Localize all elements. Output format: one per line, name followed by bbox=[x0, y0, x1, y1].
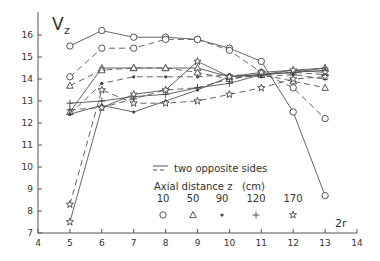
x-tick-label: 6 bbox=[99, 238, 105, 248]
circle-marker-icon bbox=[322, 115, 328, 121]
circle-marker-icon bbox=[99, 45, 105, 51]
circle-marker-icon bbox=[131, 45, 137, 51]
star-marker-icon bbox=[194, 97, 201, 104]
y-tick-label: 8 bbox=[27, 206, 33, 216]
x-tick-label: 14 bbox=[351, 238, 363, 248]
circle-marker-icon bbox=[160, 212, 166, 218]
legend-entry-label: 90 bbox=[216, 193, 229, 204]
legend-entries: 105090120170 bbox=[157, 193, 303, 219]
legend-entry-label: 120 bbox=[246, 193, 265, 204]
y-tick-label: 15 bbox=[22, 52, 33, 62]
x-tick-label: 8 bbox=[163, 238, 169, 248]
y-axis-label-subscript: z bbox=[64, 24, 70, 37]
legend-title: Axial distance z (cm) bbox=[154, 181, 265, 192]
star-marker-icon bbox=[66, 201, 73, 208]
triangle-marker-icon bbox=[322, 84, 329, 90]
legend: two opposite sides Axial distance z (cm)… bbox=[153, 163, 303, 219]
star-marker-icon bbox=[258, 84, 265, 91]
legend-entry-label: 50 bbox=[187, 193, 200, 204]
legend-line-note: two opposite sides bbox=[174, 163, 267, 174]
circle-marker-icon bbox=[258, 58, 264, 64]
asterisk-marker-icon bbox=[132, 75, 135, 78]
star-marker-icon bbox=[290, 75, 297, 82]
circle-marker-icon bbox=[67, 74, 73, 80]
asterisk-marker-icon bbox=[132, 110, 135, 113]
y-tick-label: 9 bbox=[27, 184, 33, 194]
y-tick-label: 16 bbox=[22, 30, 34, 40]
legend-entry-label: 170 bbox=[283, 193, 302, 204]
circle-marker-icon bbox=[162, 36, 168, 42]
x-tick-label: 11 bbox=[256, 238, 267, 248]
line-chart: 456789101112131478910111213141516 V z 2r… bbox=[0, 0, 380, 261]
circle-marker-icon bbox=[131, 34, 137, 40]
y-tick-label: 11 bbox=[22, 140, 33, 150]
x-axis-label: 2r bbox=[335, 217, 347, 230]
star-marker-icon bbox=[322, 73, 329, 80]
star-marker-icon bbox=[98, 104, 105, 111]
y-tick-label: 14 bbox=[22, 74, 34, 84]
y-axis-label: V bbox=[52, 14, 64, 34]
x-tick-label: 10 bbox=[224, 238, 236, 248]
star-marker-icon bbox=[66, 218, 73, 225]
y-tick-label: 10 bbox=[22, 162, 34, 172]
circle-marker-icon bbox=[67, 43, 73, 49]
x-tick-label: 13 bbox=[319, 238, 330, 248]
star-marker-icon bbox=[226, 91, 233, 98]
star-marker-icon bbox=[130, 99, 137, 106]
legend-entry-label: 10 bbox=[157, 193, 170, 204]
circle-marker-icon bbox=[290, 109, 296, 115]
star-marker-icon bbox=[289, 211, 296, 218]
circle-marker-icon bbox=[194, 36, 200, 42]
x-tick-label: 5 bbox=[67, 238, 73, 248]
star-marker-icon bbox=[98, 86, 105, 93]
asterisk-marker-icon bbox=[196, 75, 199, 78]
x-tick-label: 9 bbox=[195, 238, 201, 248]
asterisk-marker-icon bbox=[100, 82, 103, 85]
triangle-marker-icon bbox=[67, 82, 74, 88]
y-tick-label: 13 bbox=[22, 96, 33, 106]
y-tick-label: 7 bbox=[27, 228, 33, 238]
triangle-marker-icon bbox=[190, 212, 197, 218]
circle-marker-icon bbox=[322, 192, 328, 198]
plus-marker-icon bbox=[194, 84, 201, 91]
circle-marker-icon bbox=[99, 27, 105, 33]
series-line bbox=[70, 75, 325, 115]
x-tick-label: 7 bbox=[131, 238, 137, 248]
asterisk-marker-icon bbox=[220, 213, 223, 216]
x-tick-label: 4 bbox=[35, 238, 41, 248]
plus-marker-icon bbox=[253, 212, 260, 219]
y-tick-label: 12 bbox=[22, 118, 33, 128]
x-tick-label: 12 bbox=[287, 238, 298, 248]
asterisk-marker-icon bbox=[164, 75, 167, 78]
circle-marker-icon bbox=[226, 47, 232, 53]
circle-marker-icon bbox=[290, 85, 296, 91]
plus-marker-icon bbox=[66, 100, 73, 107]
